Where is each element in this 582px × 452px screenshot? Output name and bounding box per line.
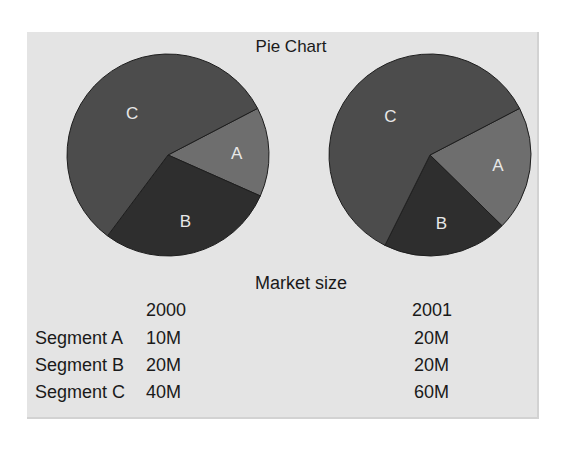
- slice-label-b: B: [180, 212, 191, 231]
- slice-label-a: A: [231, 144, 243, 163]
- slice-label-b: B: [436, 214, 447, 233]
- pie-2000: ABC: [67, 54, 269, 256]
- row-value: 10M: [146, 328, 181, 349]
- slice-label-c: C: [384, 107, 396, 126]
- row-label: Segment B: [35, 355, 124, 376]
- pie-2001: ABC: [329, 54, 531, 256]
- slice-label-a: A: [492, 156, 504, 175]
- row-value: 20M: [414, 328, 449, 349]
- slice-label-c: C: [126, 104, 138, 123]
- chart-subtitle: Market size: [0, 273, 582, 294]
- row-value: 40M: [146, 382, 181, 403]
- row-label: Segment C: [35, 382, 125, 403]
- column-header-2001: 2001: [412, 300, 452, 321]
- row-label: Segment A: [35, 328, 123, 349]
- row-value: 20M: [146, 355, 181, 376]
- row-value: 60M: [414, 382, 449, 403]
- row-value: 20M: [414, 355, 449, 376]
- column-header-2000: 2000: [146, 300, 186, 321]
